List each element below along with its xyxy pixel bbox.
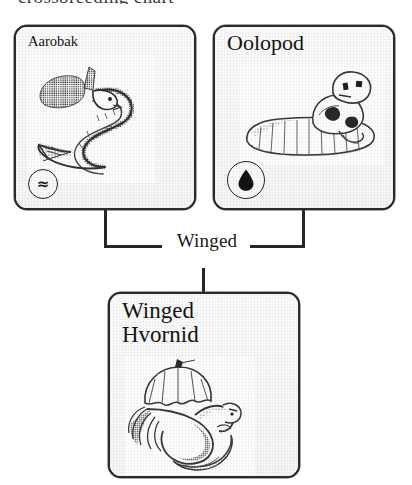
connector-line-left-vertical xyxy=(104,210,107,248)
card-title-oolopod: Oolopod xyxy=(227,31,304,54)
creature-artwork-oolopod xyxy=(239,65,384,165)
card-title-winged-hvornid: Winged Hvornid xyxy=(122,299,199,348)
connector-line-right-vertical xyxy=(302,210,305,248)
connector-line-to-offspring xyxy=(202,268,205,294)
cut-off-heading: crossbreeding chart xyxy=(0,0,412,4)
element-badge-aarobak[interactable]: ≈ xyxy=(28,169,58,199)
element-badge-oolopod[interactable] xyxy=(227,161,265,199)
water-droplet-icon xyxy=(236,168,256,192)
trait-label-winged: Winged xyxy=(160,231,254,250)
card-inner: Aarobak xyxy=(16,27,194,208)
card-inner: Winged Hvornid xyxy=(110,294,298,476)
creature-artwork-aarobak xyxy=(27,55,155,183)
water-wave-icon: ≈ xyxy=(37,176,50,191)
connector-line-right-horizontal xyxy=(250,245,305,248)
creature-card-oolopod[interactable]: Oolopod xyxy=(213,25,395,210)
connector-line-left-horizontal xyxy=(104,245,162,248)
breeding-diagram: crossbreeding chart Aarobak xyxy=(0,0,412,485)
creature-card-aarobak[interactable]: Aarobak xyxy=(14,25,196,210)
creature-artwork-winged-hvornid xyxy=(125,357,255,475)
card-title-aarobak: Aarobak xyxy=(28,34,78,49)
creature-card-winged-hvornid[interactable]: Winged Hvornid xyxy=(108,292,300,478)
card-inner: Oolopod xyxy=(215,27,393,208)
